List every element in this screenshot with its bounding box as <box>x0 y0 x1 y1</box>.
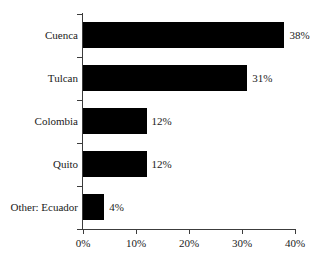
bar-row: 38% <box>83 14 295 57</box>
bar-other-ecuador <box>83 194 104 220</box>
plot-area: 38% 31% 12% 12% 4% <box>83 14 295 229</box>
y-axis-tick <box>77 229 82 230</box>
bar-chart: Cuenca Tulcan Colombia Quito Other: Ecua… <box>0 0 319 264</box>
category-label-other-ecuador: Other: Ecuador <box>0 200 78 214</box>
x-axis-tick-label-0: 0% <box>76 236 91 250</box>
y-axis-tick <box>77 143 82 144</box>
bar-value-colombia: 12% <box>152 110 172 132</box>
y-axis-tick <box>77 100 82 101</box>
bar-value-cuenca: 38% <box>289 24 309 46</box>
bar-value-tulcan: 31% <box>252 67 272 89</box>
x-axis-tick-label-10: 10% <box>126 236 146 250</box>
x-axis-tick-label-40: 40% <box>285 236 305 250</box>
bar-colombia <box>83 108 147 134</box>
x-axis-tick <box>189 229 190 234</box>
bar-value-other-ecuador: 4% <box>109 196 124 218</box>
category-label-quito: Quito <box>0 157 78 171</box>
bar-value-quito: 12% <box>152 153 172 175</box>
bar-row: 4% <box>83 186 295 229</box>
x-axis-tick <box>136 229 137 234</box>
bar-quito <box>83 151 147 177</box>
x-axis-tick <box>242 229 243 234</box>
x-axis-tick <box>83 229 84 234</box>
bar-row: 31% <box>83 57 295 100</box>
bar-tulcan <box>83 65 247 91</box>
category-label-tulcan: Tulcan <box>0 71 78 85</box>
x-axis-tick-label-30: 30% <box>232 236 252 250</box>
x-axis-tick <box>295 229 296 234</box>
bar-row: 12% <box>83 143 295 186</box>
bar-row: 12% <box>83 100 295 143</box>
y-axis-tick <box>77 186 82 187</box>
x-axis-tick-label-20: 20% <box>179 236 199 250</box>
y-axis-tick <box>77 57 82 58</box>
bar-cuenca <box>83 22 284 48</box>
y-axis-tick <box>77 14 82 15</box>
category-label-colombia: Colombia <box>0 114 78 128</box>
category-label-cuenca: Cuenca <box>0 28 78 42</box>
